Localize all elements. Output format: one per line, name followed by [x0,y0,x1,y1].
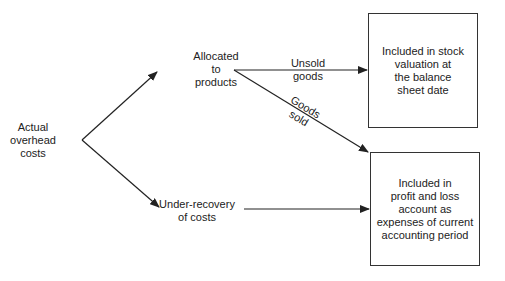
node-under-recovery: Under-recovery of costs [150,198,244,224]
arrow-to-allocated [82,72,157,140]
box-stock-valuation-text: Included in stock valuation at the balan… [382,45,464,97]
node-actual-overhead-costs: Actual overhead costs [2,121,64,160]
node-allocated-to-products: Allocated to products [184,50,248,89]
box-stock-valuation: Included in stock valuation at the balan… [368,13,478,128]
arrow-to-under-recovery [82,140,159,207]
box-profit-and-loss-text: Included in profit and loss account as e… [377,177,474,242]
box-profit-and-loss: Included in profit and loss account as e… [370,152,480,266]
edge-label-unsold-goods: Unsold goods [286,57,330,83]
